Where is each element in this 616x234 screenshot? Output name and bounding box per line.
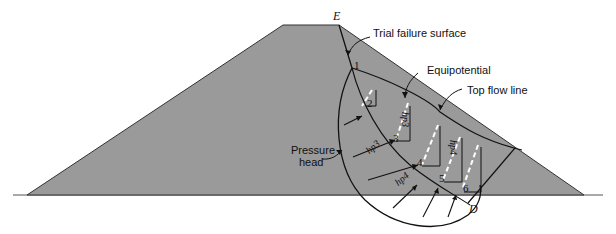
dam-body	[27, 25, 584, 195]
point-d-label: D	[469, 203, 478, 215]
slice-6-label: 6	[463, 183, 469, 194]
hp4-label: hp4	[448, 140, 458, 155]
slice-2-label: 2	[367, 98, 373, 109]
slice-4-label: 4	[417, 157, 423, 168]
pressure-head-label-line2: head	[299, 157, 323, 168]
hp3-label: hp3	[400, 112, 410, 127]
point-e-label: E	[333, 10, 340, 22]
trial-failure-surface-label: Trial failure surface	[373, 28, 466, 39]
dam-seepage-diagram: E Trial failure surface Equipotential To…	[0, 0, 616, 234]
equipotential-label: Equipotential	[427, 65, 491, 76]
pressure-head-label-line1: Pressure	[291, 145, 335, 156]
top-flow-line-label: Top flow line	[467, 85, 528, 96]
slice-3-label: 3	[393, 133, 399, 144]
diagram-canvas	[0, 0, 616, 234]
slice-1-label: 1	[354, 60, 360, 71]
slice-5-label: 5	[439, 173, 445, 184]
